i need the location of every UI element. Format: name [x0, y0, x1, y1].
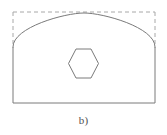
figure-container: b): [0, 0, 167, 135]
canvas-background: [0, 0, 167, 135]
diagram-canvas: [0, 0, 167, 135]
